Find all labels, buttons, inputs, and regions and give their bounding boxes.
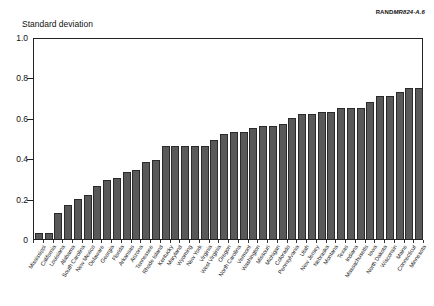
bar	[366, 102, 374, 239]
bar	[376, 96, 384, 239]
bar	[181, 146, 189, 239]
plot-area	[33, 38, 423, 240]
bar	[93, 186, 101, 239]
bar	[269, 126, 277, 239]
bar	[35, 233, 43, 239]
bar	[259, 126, 267, 239]
bar	[152, 160, 160, 239]
y-axis-tick-label: 1.0	[0, 33, 28, 43]
y-axis-tick-label: 0.4	[0, 154, 28, 164]
bar	[415, 88, 423, 240]
bar	[327, 112, 335, 239]
bar	[308, 114, 316, 239]
bar	[74, 199, 82, 239]
bar	[337, 108, 345, 239]
y-axis-title: Standard deviation	[22, 19, 93, 29]
bar	[142, 162, 150, 239]
bar	[347, 108, 355, 239]
y-axis-tick-label: 0.6	[0, 114, 28, 124]
bar	[162, 146, 170, 239]
bar	[249, 128, 257, 239]
bar	[201, 146, 209, 239]
bar	[298, 114, 306, 239]
source-credit: RANDMR824-A.6	[376, 9, 425, 15]
y-axis-tick-label: 0.8	[0, 73, 28, 83]
bar	[220, 134, 228, 239]
bar	[396, 92, 404, 239]
bar	[210, 140, 218, 239]
bar	[230, 132, 238, 239]
bar	[132, 170, 140, 239]
bar	[240, 132, 248, 239]
bar	[191, 146, 199, 239]
bar	[318, 112, 326, 239]
bar	[288, 118, 296, 239]
bar	[123, 172, 131, 239]
source-credit-brand: RAND	[376, 9, 394, 15]
bars-layer	[34, 39, 422, 239]
source-credit-document-id: MR824-A.6	[393, 9, 425, 15]
bar	[64, 205, 72, 239]
bar	[171, 146, 179, 239]
figure-standard-deviation-by-state: RANDMR824-A.6 Standard deviation 00.20.4…	[0, 0, 434, 306]
bar	[84, 195, 92, 239]
bar	[279, 124, 287, 239]
bar	[45, 233, 53, 239]
bar	[405, 88, 413, 240]
y-axis-tick-label: 0.2	[0, 195, 28, 205]
bar	[54, 213, 62, 239]
bar	[357, 108, 365, 239]
bar	[103, 180, 111, 239]
bar	[386, 96, 394, 239]
x-axis-labels: MississippiCaliforniaLouisianaAlabamaSou…	[0, 240, 434, 306]
bar	[113, 178, 121, 239]
